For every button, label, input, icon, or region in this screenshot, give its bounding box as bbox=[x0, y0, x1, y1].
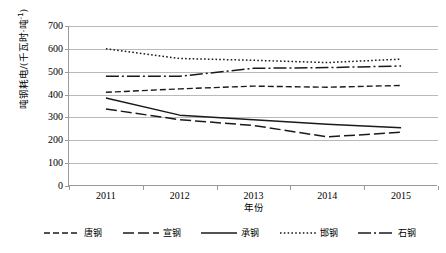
x-axis-tick-mark bbox=[290, 186, 291, 190]
y-axis-tick-label: 600 bbox=[33, 44, 63, 54]
x-axis-tick-label: 2011 bbox=[76, 190, 136, 201]
line-chart: 吨钢耗电/(千瓦时·吨-1) 7006005004003002001000 20… bbox=[0, 0, 446, 253]
series-line-石钢 bbox=[106, 66, 401, 76]
series-line-邯钢 bbox=[106, 49, 401, 63]
x-axis-tick-label: 2013 bbox=[224, 190, 284, 201]
y-axis-title: 吨钢耗电/(千瓦时·吨-1) bbox=[16, 0, 30, 134]
legend-swatch-承钢 bbox=[201, 228, 237, 238]
legend-item-邯钢[interactable]: 邯钢 bbox=[280, 228, 338, 238]
y-axis-tick-label: 0 bbox=[33, 181, 63, 191]
x-axis-tick-label: 2014 bbox=[297, 190, 357, 201]
y-axis-tick-label: 300 bbox=[33, 112, 63, 122]
series-lines bbox=[69, 26, 438, 186]
x-axis-tick-mark bbox=[217, 186, 218, 190]
y-axis-tick-label: 200 bbox=[33, 135, 63, 145]
y-axis-tick-label: 500 bbox=[33, 67, 63, 77]
x-axis-tick-mark bbox=[69, 186, 70, 190]
chart-legend: 唐钢宣钢承钢邯钢石钢 bbox=[44, 224, 416, 242]
legend-label: 唐钢 bbox=[84, 228, 102, 238]
legend-label: 石钢 bbox=[398, 228, 416, 238]
legend-swatch-宣钢 bbox=[123, 228, 159, 238]
series-line-宣钢 bbox=[106, 109, 401, 137]
y-axis-tick-label: 400 bbox=[33, 90, 63, 100]
x-axis-title: 年份 bbox=[224, 202, 284, 213]
series-line-唐钢 bbox=[106, 85, 401, 92]
x-axis-tick-mark bbox=[143, 186, 144, 190]
y-axis-title-superscript: -1 bbox=[17, 12, 25, 19]
y-axis-tick-label: 100 bbox=[33, 158, 63, 168]
y-axis-tick-label: 700 bbox=[33, 21, 63, 31]
legend-item-石钢[interactable]: 石钢 bbox=[358, 228, 416, 238]
legend-item-宣钢[interactable]: 宣钢 bbox=[123, 228, 181, 238]
series-line-承钢 bbox=[106, 98, 401, 128]
legend-swatch-邯钢 bbox=[280, 228, 316, 238]
plot-area: 7006005004003002001000 20112012201320142… bbox=[68, 26, 437, 186]
legend-label: 承钢 bbox=[241, 228, 259, 238]
legend-item-唐钢[interactable]: 唐钢 bbox=[44, 228, 102, 238]
y-axis-title-tail: ) bbox=[18, 9, 29, 13]
x-axis-tick-mark bbox=[364, 186, 365, 190]
x-axis-tick-label: 2012 bbox=[150, 190, 210, 201]
legend-label: 邯钢 bbox=[320, 228, 338, 238]
legend-swatch-石钢 bbox=[358, 228, 394, 238]
x-axis-tick-label: 2015 bbox=[371, 190, 431, 201]
legend-item-承钢[interactable]: 承钢 bbox=[201, 228, 259, 238]
x-axis-tick-mark bbox=[438, 186, 439, 190]
legend-swatch-唐钢 bbox=[44, 228, 80, 238]
y-axis-title-text: 吨钢耗电/(千瓦时·吨 bbox=[18, 19, 29, 109]
legend-label: 宣钢 bbox=[163, 228, 181, 238]
